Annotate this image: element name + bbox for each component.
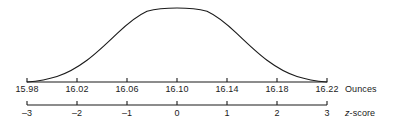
zscore-tick-label: 2 (253, 108, 301, 118)
zscore-tick-label: –1 (103, 108, 151, 118)
zscore-tick-label: –2 (53, 108, 101, 118)
ounces-axis-ticks (27, 78, 327, 82)
ounces-tick-label: 16.10 (153, 84, 201, 94)
ounces-tick-label: 16.06 (103, 84, 151, 94)
zscore-axis-name: z-score (345, 108, 375, 118)
ounces-axis-name: Ounces (345, 84, 377, 94)
normal-curve (27, 8, 327, 82)
ounces-tick-label: 16.14 (203, 84, 251, 94)
ounces-tick-label: 16.18 (253, 84, 301, 94)
ounces-tick-label: 16.22 (303, 84, 351, 94)
zscore-tick-label: –3 (3, 108, 51, 118)
zscore-tick-label: 0 (153, 108, 201, 118)
zscore-axis-ticks (27, 101, 327, 105)
zscore-tick-label: 1 (203, 108, 251, 118)
zscore-axis-name-suffix: -score (350, 108, 376, 118)
ounces-tick-label: 16.02 (53, 84, 101, 94)
normal-distribution-figure: 15.98 16.02 16.06 16.10 16.14 16.18 16.2… (0, 0, 399, 132)
zscore-tick-label: 3 (303, 108, 351, 118)
ounces-tick-label: 15.98 (3, 84, 51, 94)
